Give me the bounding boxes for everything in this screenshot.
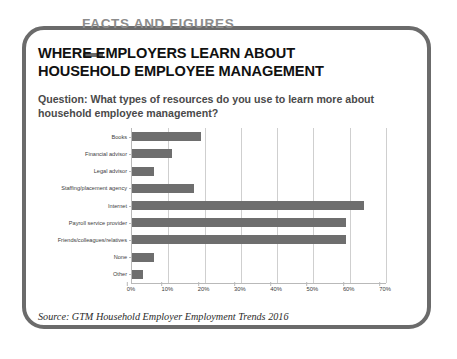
category-label: Staffing/placement agency	[61, 183, 127, 193]
banner-label: FACTS AND FIGURES	[82, 16, 234, 31]
value-tick-label: 50%	[307, 286, 319, 292]
value-tick-mark	[379, 282, 380, 286]
value-tick-label: 70%	[379, 286, 391, 292]
bar-chart: BooksFinancial advisorLegal advisorStaff…	[36, 128, 426, 308]
category-tick	[129, 171, 132, 172]
bar	[132, 132, 201, 141]
category-tick	[129, 240, 132, 241]
chart-plot-wrapper: BooksFinancial advisorLegal advisorStaff…	[36, 128, 426, 288]
source-note: Source: GTM Household Employer Employmen…	[38, 311, 289, 322]
category-tick	[129, 188, 132, 189]
value-tick-mark	[161, 282, 162, 286]
category-label: Payroll service provider	[69, 218, 127, 228]
category-label: Financial advisor	[85, 149, 127, 159]
bar	[132, 167, 154, 176]
category-tick	[129, 154, 132, 155]
value-tick-label: 10%	[161, 286, 173, 292]
category-label: Legal advisor	[94, 166, 127, 176]
plot-area	[131, 128, 386, 284]
category-tick	[129, 274, 132, 275]
value-tick-label: 30%	[234, 286, 246, 292]
value-tick-mark	[127, 282, 128, 286]
bar	[132, 235, 346, 244]
value-tick-mark	[307, 282, 308, 286]
bar	[132, 201, 364, 210]
value-tick-mark	[234, 282, 235, 286]
value-axis-labels: 0%10%20%30%40%50%60%70%	[131, 286, 391, 300]
value-tick-mark	[270, 282, 271, 286]
value-tick-label: 20%	[198, 286, 210, 292]
category-tick	[129, 257, 132, 258]
value-tick-mark	[198, 282, 199, 286]
category-label: Other	[113, 269, 127, 279]
category-tick	[129, 223, 132, 224]
value-tick-label: 60%	[343, 286, 355, 292]
question-text: Question: What types of resources do you…	[38, 93, 398, 121]
bar	[132, 270, 143, 279]
category-tick	[129, 137, 132, 138]
value-tick-mark	[343, 282, 344, 286]
value-tick-label: 0%	[127, 286, 135, 292]
page-title: WHERE EMPLOYERS LEARN ABOUT HOUSEHOLD EM…	[38, 44, 378, 81]
category-axis-labels: BooksFinancial advisorLegal advisorStaff…	[36, 128, 131, 283]
category-tick	[129, 206, 132, 207]
bar	[132, 184, 194, 193]
bar	[132, 149, 172, 158]
value-tick-label: 40%	[270, 286, 282, 292]
category-label: None	[114, 252, 127, 262]
category-label: Books	[111, 132, 127, 142]
gridline	[386, 128, 387, 283]
bar	[132, 218, 346, 227]
bar	[132, 253, 154, 262]
category-label: Friends/colleagues/relatives	[58, 235, 127, 245]
category-label: Internet	[108, 201, 127, 211]
